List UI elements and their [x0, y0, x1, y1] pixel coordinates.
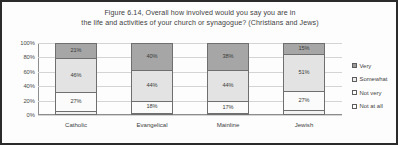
- bar-segment-label: 44%: [146, 83, 157, 89]
- legend-swatch-icon: [352, 104, 357, 109]
- stacked-bar[interactable]: 21%46%27%5%5%: [55, 43, 97, 115]
- bar-segment-label: 51%: [298, 70, 309, 76]
- stacked-bar[interactable]: 38%44%17%1%1%: [207, 43, 249, 115]
- stacked-bar[interactable]: 15%51%27%7%7%: [283, 43, 325, 115]
- stacked-bar[interactable]: 40%44%18%3%3%: [131, 43, 173, 115]
- y-axis-tick-label: 0%: [27, 112, 35, 118]
- legend-swatch-icon: [352, 77, 357, 82]
- y-axis-tick-label: 80%: [23, 54, 35, 60]
- chart-title-line-2: the life and activities of your church o…: [40, 19, 360, 29]
- bar-segment[interactable]: 15%: [283, 43, 325, 54]
- bar-segment-label: 21%: [70, 48, 81, 54]
- legend-item[interactable]: Very: [352, 59, 398, 73]
- bar-segment-label: 46%: [70, 73, 81, 79]
- y-axis-tick-label: 40%: [23, 83, 35, 89]
- legend-item-label: Very: [360, 63, 372, 69]
- legend-item-label: Not at all: [360, 103, 383, 109]
- legend-item-label: Somewhat: [360, 76, 388, 82]
- bar-segment-label: 40%: [146, 54, 157, 60]
- legend-swatch-icon: [352, 90, 357, 95]
- bar-group: 38%44%17%1%1%Mainline: [190, 43, 266, 115]
- bar-segment[interactable]: 27%: [55, 92, 97, 111]
- bar-group: 40%44%18%3%3%Evangelical: [114, 43, 190, 115]
- x-axis-category-label: Jewish: [295, 121, 314, 128]
- bar-segment[interactable]: 7%7%: [283, 110, 325, 115]
- legend-item-label: Not very: [360, 90, 382, 96]
- bar-group: 15%51%27%7%7%Jewish: [266, 43, 342, 115]
- bar-segment[interactable]: 1%1%: [207, 113, 249, 115]
- bar-segment-label: 15%: [298, 46, 309, 52]
- chart-title: Figure 6.14, Overall how involved would …: [40, 9, 360, 28]
- bar-segment[interactable]: 40%: [131, 43, 173, 70]
- bar-segment-label: 38%: [222, 54, 233, 60]
- bar-segment[interactable]: 21%: [55, 43, 97, 58]
- bar-segment-label: 44%: [222, 83, 233, 89]
- bar-segment[interactable]: 44%: [131, 70, 173, 100]
- bar-segment[interactable]: 17%: [207, 101, 249, 113]
- chart-title-line-1: Figure 6.14, Overall how involved would …: [104, 9, 295, 17]
- bar-segment[interactable]: 3%3%: [131, 113, 173, 115]
- legend-item[interactable]: Somewhat: [352, 73, 398, 87]
- x-axis-category-label: Mainline: [217, 121, 240, 128]
- y-axis-tick-label: 100%: [20, 40, 35, 46]
- y-axis-tick-label: 60%: [23, 69, 35, 75]
- gridline: [38, 115, 342, 116]
- bar-segment-label: 18%: [146, 104, 157, 110]
- bar-group: 21%46%27%5%5%Catholic: [38, 43, 114, 115]
- chart-legend: VerySomewhatNot veryNot at all: [352, 59, 398, 113]
- legend-swatch-icon: [352, 63, 357, 68]
- bar-segment[interactable]: 44%: [207, 70, 249, 101]
- figure-inner: Figure 6.14, Overall how involved would …: [2, 2, 396, 143]
- bar-segment-label: 27%: [298, 98, 309, 104]
- bar-segment[interactable]: 5%5%: [55, 111, 97, 115]
- bar-segment[interactable]: 46%: [55, 58, 97, 92]
- y-axis-tick-label: 20%: [23, 98, 35, 104]
- bar-segment-label: 27%: [70, 99, 81, 105]
- bar-segment[interactable]: 27%: [283, 91, 325, 110]
- legend-item[interactable]: Not very: [352, 86, 398, 100]
- legend-item[interactable]: Not at all: [352, 100, 398, 114]
- x-axis-category-label: Evangelical: [136, 121, 167, 128]
- x-axis-category-label: Catholic: [65, 121, 87, 128]
- bar-segment-label: 17%: [222, 105, 233, 111]
- bar-segment[interactable]: 51%: [283, 54, 325, 91]
- figure-frame: Figure 6.14, Overall how involved would …: [0, 0, 398, 145]
- bar-segment[interactable]: 38%: [207, 43, 249, 70]
- bar-segment[interactable]: 18%: [131, 101, 173, 113]
- plot-area: 100%80%60%40%20%0%21%46%27%5%5%Catholic4…: [38, 43, 342, 115]
